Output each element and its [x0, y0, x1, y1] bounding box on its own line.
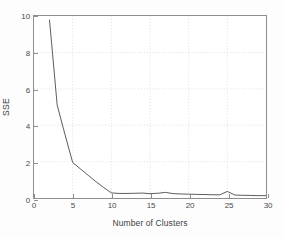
x-tick-label: 15 [147, 201, 156, 210]
x-tick-label: 5 [71, 201, 75, 210]
x-tick-label: 30 [264, 201, 273, 210]
y-tick-mark [34, 163, 38, 164]
x-axis-label: Number of Clusters [33, 218, 267, 228]
y-tick-mark [34, 126, 38, 127]
x-tick-mark [229, 194, 230, 198]
x-tick-label: 10 [108, 201, 117, 210]
y-axis-label: SSE [1, 98, 11, 116]
y-tick-mark [34, 90, 38, 91]
x-tick-mark [151, 194, 152, 198]
x-tick-label: 20 [186, 201, 195, 210]
sse-curve-layer [34, 16, 266, 198]
y-tick-label: 0 [26, 196, 30, 205]
x-tick-label: 0 [32, 201, 36, 210]
y-tick-label: 10 [21, 12, 30, 21]
sse-line [49, 20, 266, 196]
y-tick-label: 6 [26, 85, 30, 94]
x-tick-mark [34, 194, 35, 198]
x-tick-mark [268, 194, 269, 198]
y-tick-label: 4 [26, 122, 30, 131]
y-tick-mark [34, 16, 38, 17]
y-tick-mark [34, 53, 38, 54]
x-tick-mark [73, 194, 74, 198]
y-tick-label: 8 [26, 48, 30, 57]
x-tick-label: 25 [225, 201, 234, 210]
chart-figure: 0246810 051015202530 Number of Clusters … [0, 0, 285, 238]
plot-area: 0246810 051015202530 [33, 15, 267, 199]
x-tick-mark [112, 194, 113, 198]
x-tick-mark [190, 194, 191, 198]
y-tick-label: 2 [26, 159, 30, 168]
